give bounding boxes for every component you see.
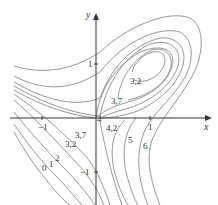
contour-label: 4,2 (106, 123, 117, 133)
y-tick-label-pos: 1 (88, 59, 93, 69)
contour-label: 3,2 (65, 139, 76, 149)
contour-label: 3,7 (75, 130, 87, 140)
x-tick-label-neg: −1 (38, 122, 48, 132)
contour-label: 3,2 (130, 76, 141, 86)
y-axis-arrow-icon (93, 13, 99, 20)
y-tick-label-neg: −1 (80, 167, 90, 177)
contour-lines (14, 16, 201, 205)
axes (10, 13, 212, 205)
contour-label: 2 (55, 153, 60, 163)
y-axis-label: y (85, 9, 91, 20)
contour-label: 1 (49, 159, 54, 169)
contour-label: 6 (143, 141, 148, 151)
contour-line (100, 122, 122, 205)
x-tick-label-pos: 1 (148, 122, 153, 132)
contour-label: 0 (42, 163, 47, 173)
contour-line (14, 38, 184, 118)
contour-line (14, 48, 173, 118)
contour-line (124, 118, 138, 205)
contour-plot: x y −1 1 1 −1 4 3,2 3,7 4,2 5 6 3,7 3,2 … (0, 0, 218, 205)
contour-line (14, 124, 82, 205)
origin-contour-label: 4 (97, 114, 102, 124)
contour-label: 3,7 (111, 96, 123, 106)
contour-label: 5 (128, 135, 133, 145)
x-axis-label: x (203, 121, 209, 132)
